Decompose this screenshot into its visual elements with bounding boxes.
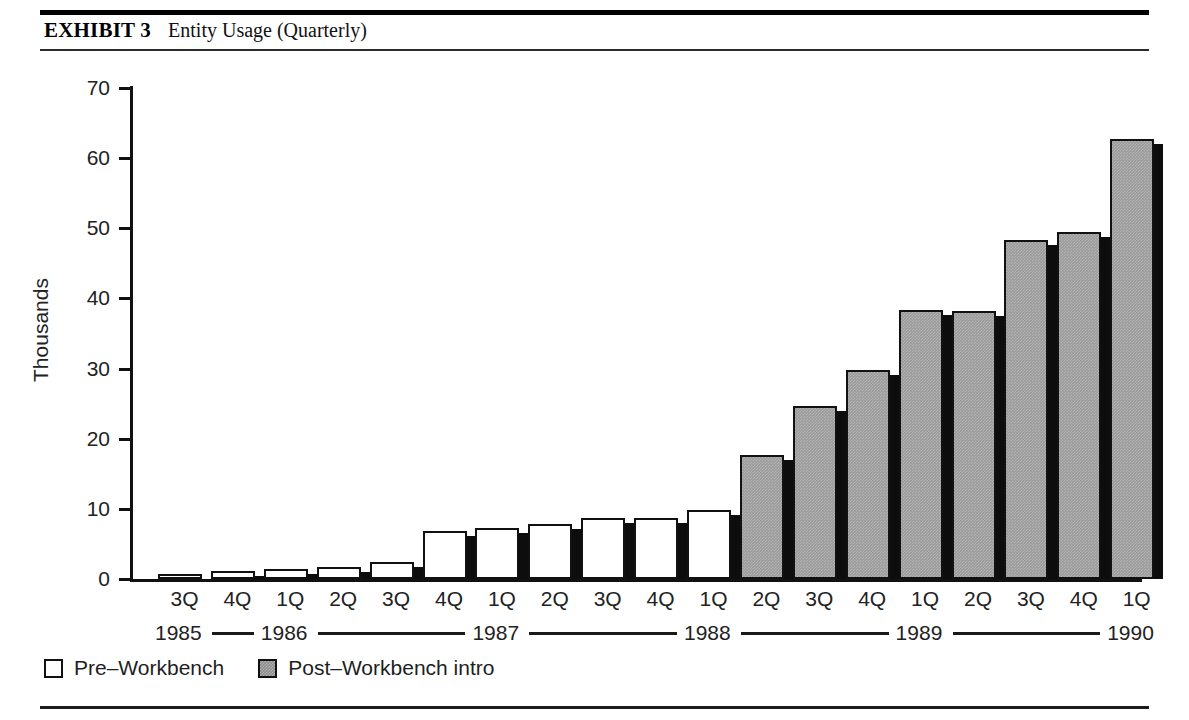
- year-label: 1986: [261, 622, 308, 643]
- year-label: 1990: [1107, 622, 1154, 643]
- bar-shadow: [467, 536, 476, 579]
- legend-label: Post–Workbench intro: [288, 656, 494, 680]
- y-tick-label: 20: [62, 428, 110, 450]
- legend-swatch-icon: [258, 659, 277, 678]
- bar-1987-3Q[interactable]: [581, 518, 634, 579]
- bar-1989-4Q[interactable]: [1057, 232, 1110, 579]
- bar-shadow: [1101, 237, 1110, 579]
- bar-shadow: [519, 533, 528, 579]
- bar-1987-4Q[interactable]: [634, 518, 687, 579]
- bar-shadow: [625, 523, 634, 579]
- bar-body[interactable]: [264, 569, 308, 579]
- x-axis-line: [130, 579, 1142, 582]
- bar-shadow: [361, 572, 370, 579]
- bar-shadow: [837, 411, 846, 579]
- bar-body[interactable]: [423, 531, 467, 579]
- quarter-label: 1Q: [1104, 588, 1169, 609]
- legend-item-pre-workbench[interactable]: Pre–Workbench: [44, 656, 224, 680]
- legend-label: Pre–Workbench: [74, 656, 224, 680]
- bar-body[interactable]: [634, 518, 678, 579]
- bar-1988-4Q[interactable]: [846, 370, 899, 579]
- bar-1985-4Q[interactable]: [211, 571, 264, 579]
- bar-body[interactable]: [740, 455, 784, 579]
- y-tick-label: 10: [62, 498, 110, 520]
- bar-1987-1Q[interactable]: [475, 528, 528, 579]
- bar-shadow: [996, 316, 1005, 579]
- bar-body[interactable]: [687, 510, 731, 579]
- year-connector-rule: [741, 632, 889, 635]
- y-axis-line: [130, 86, 133, 582]
- y-tick-value: 70: [62, 77, 110, 98]
- year-connector-rule: [212, 632, 254, 635]
- bar-1988-1Q[interactable]: [687, 510, 740, 579]
- bar-shadow: [1048, 245, 1057, 579]
- y-tick-label: 50: [62, 217, 110, 239]
- bar-1986-1Q[interactable]: [264, 569, 317, 579]
- bar-body[interactable]: [1057, 232, 1101, 579]
- y-tick-value: 50: [62, 217, 110, 238]
- bar-shadow: [678, 523, 687, 579]
- year-connector-rule: [529, 632, 677, 635]
- bar-body[interactable]: [317, 567, 361, 579]
- y-tick-value: 40: [62, 287, 110, 308]
- bar-1988-2Q[interactable]: [740, 455, 793, 579]
- year-label: 1985: [155, 622, 202, 643]
- legend-swatch-icon: [44, 659, 63, 678]
- bar-1987-2Q[interactable]: [528, 524, 581, 579]
- y-tick-label: 60: [62, 147, 110, 169]
- bar-1986-4Q[interactable]: [423, 531, 476, 579]
- y-tick-label: 70: [62, 77, 110, 99]
- bar-1989-2Q[interactable]: [952, 311, 1005, 579]
- bar-shadow: [784, 460, 793, 579]
- bar-chart: Thousands 706050403020100 3Q4Q1Q2Q3Q4Q1Q…: [0, 0, 1189, 720]
- bar-body[interactable]: [581, 518, 625, 579]
- bar-body[interactable]: [528, 524, 572, 579]
- bar-shadow: [414, 567, 423, 579]
- y-tick-value: 10: [62, 498, 110, 519]
- bar-shadow: [731, 515, 740, 579]
- bar-body[interactable]: [370, 562, 414, 579]
- bar-1989-1Q[interactable]: [899, 310, 952, 579]
- y-tick-value: 30: [62, 358, 110, 379]
- bar-shadow: [890, 375, 899, 579]
- y-axis-title: Thousands: [29, 250, 53, 410]
- bar-shadow: [943, 315, 952, 579]
- year-label: 1988: [684, 622, 731, 643]
- y-tick-value: 0: [62, 568, 110, 589]
- y-tick-label: 30: [62, 358, 110, 380]
- year-label: 1989: [896, 622, 943, 643]
- year-label: 1987: [472, 622, 519, 643]
- bar-shadow: [1154, 144, 1163, 579]
- bar-1989-3Q[interactable]: [1004, 240, 1057, 579]
- bar-body[interactable]: [846, 370, 890, 579]
- bar-body[interactable]: [899, 310, 943, 579]
- bar-body[interactable]: [1110, 139, 1154, 579]
- y-tick-label: 40: [62, 287, 110, 309]
- y-tick-value: 60: [62, 147, 110, 168]
- legend-item-post-workbench[interactable]: Post–Workbench intro: [258, 656, 494, 680]
- bar-body[interactable]: [952, 311, 996, 579]
- bar-1990-1Q[interactable]: [1110, 139, 1163, 579]
- chart-legend: Pre–WorkbenchPost–Workbench intro: [44, 656, 494, 680]
- bar-body[interactable]: [211, 571, 255, 579]
- year-connector-rule: [318, 632, 466, 635]
- bar-body[interactable]: [793, 406, 837, 579]
- bar-1988-3Q[interactable]: [793, 406, 846, 579]
- bar-shadow: [572, 529, 581, 579]
- bar-1986-3Q[interactable]: [370, 562, 423, 579]
- bar-body[interactable]: [1004, 240, 1048, 579]
- y-tick-value: 20: [62, 428, 110, 449]
- year-connector-rule: [953, 632, 1101, 635]
- y-tick-label: 0: [62, 568, 110, 590]
- bar-1986-2Q[interactable]: [317, 567, 370, 579]
- bar-body[interactable]: [475, 528, 519, 579]
